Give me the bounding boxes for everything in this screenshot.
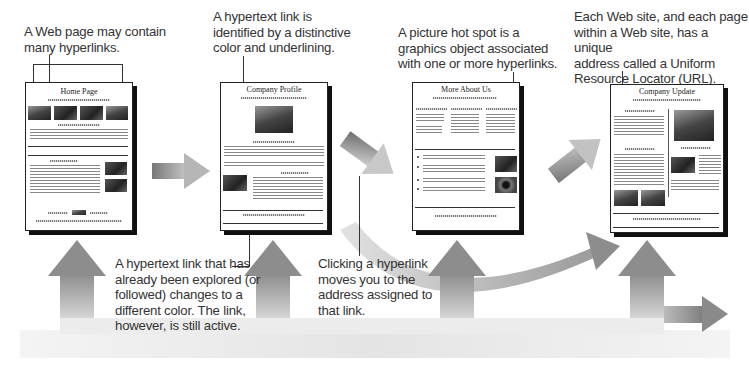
hyperlink-text	[241, 97, 307, 99]
hyperlink-text	[58, 124, 100, 126]
hyperlink-text	[633, 218, 701, 220]
body-text	[614, 154, 664, 185]
hyperlink-text	[253, 141, 295, 143]
caption-web-page-hyperlinks: A Web page may contain many hyperlinks.	[24, 24, 166, 55]
picture-hot-spot-flower[interactable]	[495, 177, 517, 193]
page-company-profile: Company Profile	[220, 82, 328, 231]
body-text	[224, 146, 324, 157]
page-home: Home Page	[25, 82, 133, 231]
divider	[415, 207, 515, 208]
hyperlink-text	[48, 99, 110, 101]
hyperlink-text	[633, 99, 701, 101]
thumbnail-image	[105, 162, 127, 175]
leader-line	[359, 176, 360, 256]
thumbnail-image	[671, 157, 695, 173]
body-text	[486, 114, 515, 133]
hyperlink-text	[433, 97, 497, 99]
divider	[28, 155, 128, 156]
leader-line	[249, 226, 250, 266]
hyperlink-text	[281, 172, 309, 174]
hyperlink-text	[50, 160, 78, 162]
body-text	[423, 165, 485, 173]
divider	[613, 213, 719, 214]
column-divider	[668, 109, 669, 197]
divider	[415, 149, 515, 150]
leader-line	[232, 266, 250, 267]
page-title: More About Us	[413, 85, 519, 94]
page-title: Company Update	[611, 87, 723, 96]
thumbnail-image	[72, 210, 86, 215]
page-company-update: Company Update	[610, 84, 724, 233]
hyperlink-text	[451, 108, 482, 110]
body-text	[30, 129, 128, 139]
building-image	[255, 106, 293, 133]
web-navigation-diagram: A Web page may contain many hyperlinks. …	[0, 0, 749, 366]
body-text	[423, 178, 485, 183]
body-text	[423, 155, 485, 160]
hyperlink-text	[243, 214, 305, 216]
body-text	[614, 116, 664, 136]
hyperlink-text	[416, 108, 447, 110]
thumbnail-image	[106, 106, 128, 120]
body-text	[423, 187, 485, 192]
caption-hypertext-identified: A hypertext link is identified by a dist…	[213, 9, 351, 56]
landscape-image	[674, 110, 714, 141]
body-text	[699, 155, 721, 175]
leader-line	[33, 64, 123, 65]
bullet	[417, 166, 419, 168]
body-text	[253, 177, 323, 201]
page-title: Home Page	[26, 87, 132, 96]
hyperlink-text	[625, 110, 655, 112]
page-title: Company Profile	[221, 85, 327, 94]
caption-picture-hot-spot: A picture hot spot is a graphics object …	[398, 25, 557, 72]
body-text	[30, 165, 100, 195]
hyperlink-text	[435, 215, 497, 217]
bullet	[417, 188, 419, 190]
hyperlink-text	[90, 212, 108, 214]
divider	[223, 223, 323, 224]
caption-followed-link: A hypertext link that has already been e…	[115, 256, 260, 334]
bullet	[417, 179, 419, 181]
hyperlink-text	[681, 147, 711, 149]
thumbnail-image	[54, 106, 77, 120]
divider	[223, 210, 323, 211]
picture-hot-spot-image[interactable]	[495, 156, 517, 172]
bullet	[417, 156, 419, 158]
hyperlink-text	[625, 148, 655, 150]
hyperlink-text	[36, 220, 122, 222]
thumbnail-image	[614, 190, 638, 206]
divider	[613, 227, 719, 228]
thumbnail-image	[641, 190, 665, 206]
body-text	[671, 180, 719, 190]
page-more-about-us: More About Us	[412, 82, 520, 231]
thumbnail-image	[223, 175, 247, 191]
thumbnail-image	[105, 179, 127, 192]
body-text	[416, 114, 444, 121]
hyperlink-text	[48, 212, 68, 214]
caption-clicking-hyperlink: Clicking a hyperlink moves you to the ad…	[318, 256, 432, 318]
thumbnail-image	[28, 106, 51, 120]
hyperlink-text	[486, 108, 517, 110]
body-text	[451, 114, 479, 133]
thumbnail-image	[80, 106, 103, 120]
caption-url: Each Web site, and each page within a We…	[574, 9, 749, 87]
divider	[28, 146, 128, 147]
body-text	[416, 126, 442, 133]
body-text	[224, 162, 324, 167]
